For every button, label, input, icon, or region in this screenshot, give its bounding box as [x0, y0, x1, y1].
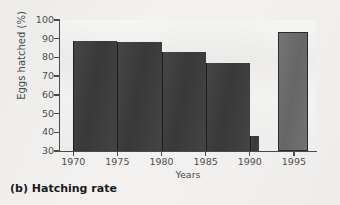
y-tick-label: 90 [32, 34, 54, 44]
y-tick-row: 100 [28, 15, 54, 25]
bar-1995 [278, 32, 308, 151]
y-tick-label: 50 [32, 109, 54, 119]
bar-1980-1985 [162, 52, 206, 151]
figure-hatching-rate: 10090807060504030 1970197519801985199019… [0, 0, 340, 205]
y-tick-label: 40 [32, 127, 54, 137]
x-tick-label: 1995 [274, 157, 314, 167]
x-tick-label: 1970 [53, 157, 93, 167]
bar-1985-1990 [206, 63, 250, 151]
y-tick-mark [54, 38, 59, 39]
y-tick-row: 80 [28, 52, 54, 62]
x-tick-label: 1990 [230, 157, 270, 167]
y-tick-row: 50 [28, 109, 54, 119]
y-tick-mark [54, 113, 59, 114]
bar-1970-1975 [73, 41, 117, 151]
y-tick-label: 70 [32, 71, 54, 81]
y-tick-label: 30 [32, 146, 54, 156]
y-tick-mark [54, 57, 59, 58]
y-axis-line [59, 19, 60, 152]
y-tick-label: 80 [32, 52, 54, 62]
y-tick-mark [54, 75, 59, 76]
y-tick-mark [54, 132, 59, 133]
y-tick-mark [54, 94, 59, 95]
y-tick-mark [54, 19, 59, 20]
y-tick-row: 30 [28, 146, 54, 156]
y-tick-row: 60 [28, 90, 54, 100]
y-tick-row: 40 [28, 127, 54, 137]
y-tick-mark [54, 150, 59, 151]
x-axis-title: Years [128, 169, 248, 180]
y-tick-row: 70 [28, 71, 54, 81]
bar-1990 [250, 136, 259, 151]
x-tick-label: 1975 [97, 157, 137, 167]
x-tick-label: 1985 [186, 157, 226, 167]
bar-1975-1980 [117, 42, 161, 151]
y-axis-title: Eggs hatched (%) [16, 0, 27, 116]
x-tick-label: 1980 [142, 157, 182, 167]
y-tick-label: 100 [32, 15, 54, 25]
figure-caption: (b) Hatching rate [10, 182, 117, 195]
y-tick-label: 60 [32, 90, 54, 100]
y-tick-row: 90 [28, 34, 54, 44]
